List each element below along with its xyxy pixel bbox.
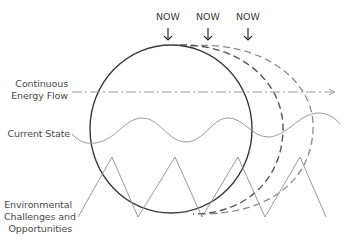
now-arrow-3 — [244, 28, 252, 40]
energy-flow-label-line1: Continuous — [8, 78, 68, 90]
present-state-circle — [90, 45, 252, 213]
environment-label: Environmental Challenges and Opportuniti… — [4, 199, 72, 235]
now-label-2: NOW — [193, 11, 223, 22]
environment-label-line1: Environmental — [4, 199, 72, 211]
future-state-circle-1 — [180, 45, 283, 214]
environment-zigzag — [78, 157, 326, 217]
environment-label-line2: Challenges and — [4, 211, 72, 223]
current-state-label: Current State — [4, 128, 70, 140]
now-cycle-diagram: NOW NOW NOW Continuous Energy Flow Curre… — [0, 0, 349, 245]
now-arrow-2 — [204, 28, 212, 40]
now-label-3: NOW — [233, 11, 263, 22]
energy-flow-label: Continuous Energy Flow — [8, 78, 68, 102]
now-label-1: NOW — [153, 11, 183, 22]
energy-flow-label-line2: Energy Flow — [8, 90, 68, 102]
now-arrow-1 — [164, 28, 172, 40]
current-state-wave — [72, 113, 340, 143]
environment-label-line3: Opportunities — [4, 223, 72, 235]
